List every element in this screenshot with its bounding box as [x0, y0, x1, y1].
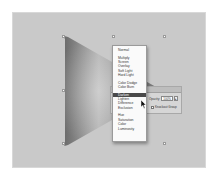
selection-handle-bottom-left[interactable] — [62, 142, 65, 145]
opacity-input[interactable]: 100% — [161, 96, 173, 101]
mouse-pointer-icon — [141, 100, 147, 109]
knockout-group-checkbox[interactable] — [151, 106, 154, 109]
selection-handle-top-right[interactable] — [163, 35, 166, 38]
selection-handle-top-middle[interactable] — [112, 35, 115, 38]
knockout-row: Knockout Group — [151, 105, 177, 109]
blend-mode-menu: Normal Multiply Screen Overlay Soft Ligh… — [112, 45, 147, 142]
selection-handle-middle-left[interactable] — [62, 89, 65, 92]
opacity-label: Opacity: — [149, 97, 160, 101]
menu-item-luminosity[interactable]: Luminosity — [113, 127, 146, 131]
selection-handle-bottom-right[interactable] — [163, 142, 166, 145]
opacity-slider-arrow-icon[interactable]: ▸ — [174, 96, 178, 101]
knockout-group-label: Knockout Group — [155, 105, 177, 109]
selection-handle-top-left[interactable] — [62, 35, 65, 38]
opacity-row: Opacity: 100% ▸ — [149, 96, 178, 101]
